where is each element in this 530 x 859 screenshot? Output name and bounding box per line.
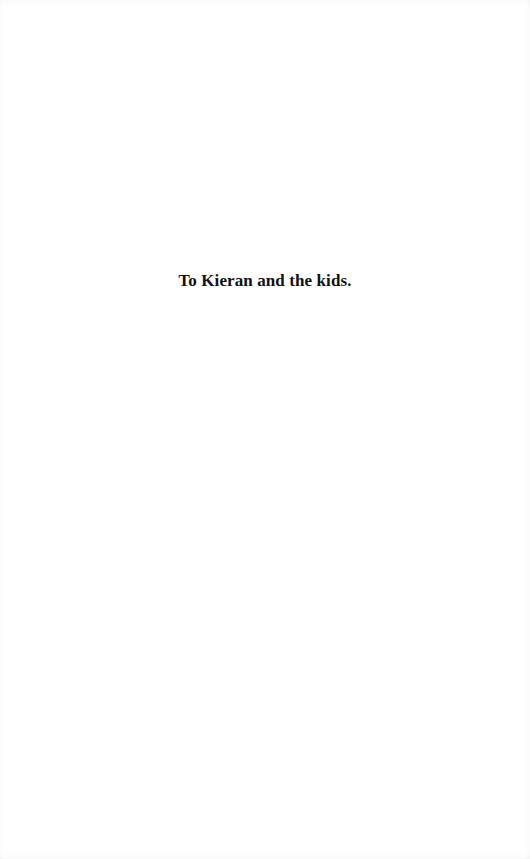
book-page: To Kieran and the kids. [0,0,530,859]
dedication-text: To Kieran and the kids. [0,271,530,291]
